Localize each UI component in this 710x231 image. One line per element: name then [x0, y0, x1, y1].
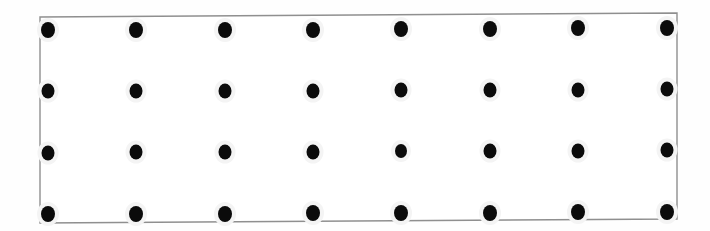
grid-dot [660, 204, 674, 220]
grid-dot [218, 22, 232, 38]
grid-dot [219, 145, 232, 160]
grid-dot [306, 22, 320, 38]
grid-dot [484, 83, 497, 98]
grid-dot [130, 145, 143, 160]
grid-dot [130, 84, 143, 99]
grid-dot [571, 20, 585, 36]
grid-dot [394, 21, 408, 37]
grid-dot [218, 206, 232, 222]
grid-dot [572, 144, 585, 159]
calibration-board [0, 0, 710, 231]
grid-dot [41, 206, 55, 222]
grid-dot [42, 84, 55, 99]
grid-dot [129, 22, 143, 38]
grid-dot [395, 83, 408, 98]
grid-dot [219, 84, 232, 99]
grid-dot [394, 205, 408, 221]
grid-dot [661, 143, 674, 158]
grid-dot [307, 145, 320, 160]
board-outline-svg [0, 0, 710, 231]
grid-dot [661, 82, 674, 97]
grid-dot [307, 84, 320, 99]
grid-dot [483, 21, 497, 37]
grid-dot [129, 206, 143, 222]
grid-dot [660, 20, 674, 36]
grid-dot [306, 205, 320, 221]
grid-dot [41, 22, 55, 38]
grid-dot [42, 146, 55, 161]
board-outline [40, 13, 677, 223]
grid-dot [572, 83, 585, 98]
dot-grid-image: A rectangular white board with a thin gr… [0, 0, 710, 231]
grid-dot [483, 205, 497, 221]
grid-dot [395, 144, 407, 158]
grid-dot [484, 144, 497, 159]
grid-dot [571, 204, 585, 220]
